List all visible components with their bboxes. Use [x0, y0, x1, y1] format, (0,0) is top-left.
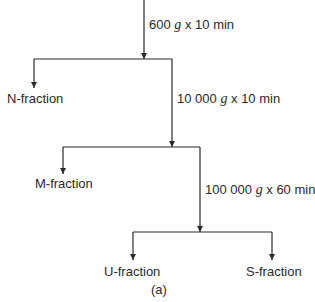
step-3-condition: 100 000 g x 60 min — [205, 183, 315, 197]
figure-caption: (a) — [151, 283, 167, 297]
arrowhead-icon — [130, 254, 136, 260]
arrowhead-icon — [269, 254, 275, 260]
duration-value: 10 min — [241, 91, 280, 106]
m-fraction-label: M-fraction — [35, 177, 93, 191]
speed-value: 600 — [149, 17, 171, 32]
speed-value: 10 000 — [177, 91, 217, 106]
step-2-condition: 10 000 g x 10 min — [177, 92, 280, 106]
flow-connectors — [0, 0, 315, 302]
g-unit: g — [256, 182, 263, 197]
times-sign: x — [231, 91, 238, 106]
s-fraction-label: S-fraction — [246, 265, 302, 279]
times-sign: x — [266, 182, 273, 197]
arrowhead-icon — [141, 53, 147, 59]
arrowhead-icon — [60, 168, 66, 174]
speed-value: 100 000 — [205, 182, 252, 197]
u-fraction-label: U-fraction — [104, 265, 160, 279]
g-unit: g — [174, 17, 181, 32]
step-1-condition: 600 g x 10 min — [149, 18, 234, 32]
times-sign: x — [185, 17, 192, 32]
arrowhead-icon — [197, 226, 203, 232]
g-unit: g — [220, 91, 227, 106]
duration-value: 10 min — [195, 17, 234, 32]
arrowhead-icon — [31, 82, 37, 88]
duration-value: 60 min — [276, 182, 315, 197]
arrowhead-icon — [169, 141, 175, 147]
n-fraction-label: N-fraction — [7, 92, 63, 106]
